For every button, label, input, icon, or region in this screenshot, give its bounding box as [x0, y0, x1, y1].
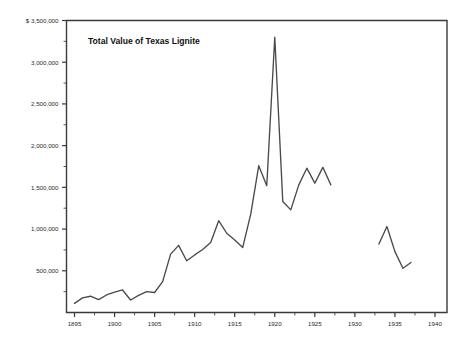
x-axis-tick-label: 1930: [348, 320, 362, 327]
chart-title: Total Value of Texas Lignite: [88, 36, 200, 46]
x-axis-tick-label: 1900: [108, 320, 122, 327]
x-axis-tick-label: 1920: [268, 320, 282, 327]
chart-container: 500,0001,000,0001,500,0002,000,0002,500,…: [0, 0, 470, 348]
chart-background: [0, 0, 470, 348]
x-axis-tick-label: 1895: [68, 320, 82, 327]
x-axis-tick-label: 1915: [228, 320, 242, 327]
y-axis-tick-label: 2,500,000: [31, 100, 59, 107]
line-chart: 500,0001,000,0001,500,0002,000,0002,500,…: [0, 0, 470, 348]
x-axis-tick-label: 1910: [188, 320, 202, 327]
x-axis-tick-label: 1940: [428, 320, 442, 327]
y-axis-tick-label: $ 3,500,000: [26, 17, 59, 24]
y-axis-tick-label: 2,000,000: [31, 142, 59, 149]
y-axis-tick-label: 1,500,000: [31, 184, 59, 191]
x-axis-tick-label: 1925: [308, 320, 322, 327]
x-axis-tick-label: 1935: [388, 320, 402, 327]
y-axis-tick-label: 500,000: [36, 267, 59, 274]
y-axis-tick-label: 3,000,000: [31, 59, 59, 66]
x-axis-tick-label: 1905: [148, 320, 162, 327]
y-axis-tick-label: 1,000,000: [31, 225, 59, 232]
